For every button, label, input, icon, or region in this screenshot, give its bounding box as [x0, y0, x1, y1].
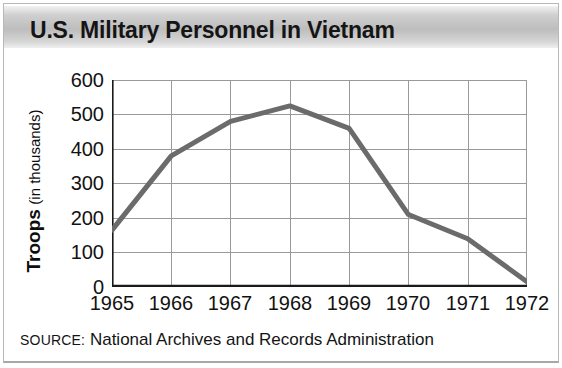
- horizontal-gridlines: [112, 81, 527, 253]
- chart-figure: U.S. Military Personnel in Vietnam Troop…: [0, 0, 562, 368]
- y-axis-title-units: (in thousands): [26, 110, 43, 205]
- x-tick-label: 1965: [90, 292, 135, 315]
- x-tick-label: 1970: [386, 292, 431, 315]
- x-tick-label: 1969: [327, 292, 372, 315]
- x-tick-label: 1971: [446, 292, 491, 315]
- source-note: SOURCE: National Archives and Records Ad…: [20, 330, 434, 350]
- x-tick-label: 1968: [268, 292, 313, 315]
- data-series-line: [112, 106, 527, 282]
- line-chart-plot: [112, 80, 527, 287]
- x-tick-label: 1972: [505, 292, 550, 315]
- y-tick-label: 100: [48, 241, 104, 264]
- y-axis-title: Troops (in thousands): [23, 81, 45, 301]
- y-tick-label: 600: [48, 69, 104, 92]
- y-tick-label: 200: [48, 207, 104, 230]
- x-tick-label: 1967: [208, 292, 253, 315]
- y-tick-label: 400: [48, 138, 104, 161]
- y-tick-label: 500: [48, 103, 104, 126]
- source-label: SOURCE:: [20, 332, 85, 348]
- y-tick-label: 300: [48, 172, 104, 195]
- y-axis-title-main: Troops: [23, 209, 44, 272]
- x-tick-label: 1966: [149, 292, 194, 315]
- source-value: National Archives and Records Administra…: [85, 330, 434, 349]
